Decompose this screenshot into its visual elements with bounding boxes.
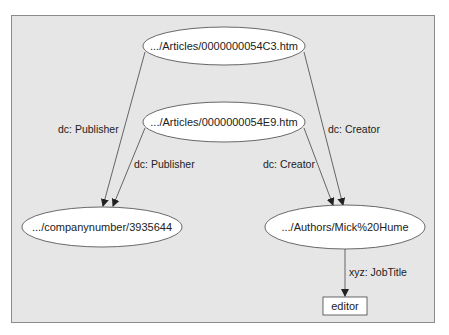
edge-article1-creator: dc: Creator xyxy=(304,52,380,205)
node-editor-literal: editor xyxy=(323,297,367,315)
svg-text:.../Authors/Mick%20Hume: .../Authors/Mick%20Hume xyxy=(281,221,408,233)
node-author: .../Authors/Mick%20Hume xyxy=(265,205,425,249)
edge-author-jobtitle: xyz: JobTitle xyxy=(345,249,407,296)
rdf-graph: dc: Publisher dc: Publisher dc: Creator … xyxy=(0,0,449,335)
edge-article2-publisher: dc: Publisher xyxy=(113,128,195,206)
edge-label-jobtitle: xyz: JobTitle xyxy=(349,266,407,278)
svg-text:.../Articles/0000000054C3.htm: .../Articles/0000000054C3.htm xyxy=(150,40,298,52)
svg-text:.../Articles/0000000054E9.htm: .../Articles/0000000054E9.htm xyxy=(150,116,297,128)
svg-text:editor: editor xyxy=(331,300,359,312)
edge-article2-creator: dc: Creator xyxy=(263,128,333,205)
node-article-54c3: .../Articles/0000000054C3.htm xyxy=(143,27,305,65)
node-company: .../companynumber/3935644 xyxy=(22,207,182,247)
svg-text:.../companynumber/3935644: .../companynumber/3935644 xyxy=(32,221,172,233)
edge-label-creator-1: dc: Creator xyxy=(328,123,380,135)
edge-label-publisher-1: dc: Publisher xyxy=(58,123,119,135)
edge-article1-publisher: dc: Publisher xyxy=(58,52,145,206)
edge-label-creator-2: dc: Creator xyxy=(263,158,315,170)
node-article-54e9: .../Articles/0000000054E9.htm xyxy=(143,102,305,142)
edge-label-publisher-2: dc: Publisher xyxy=(134,158,195,170)
